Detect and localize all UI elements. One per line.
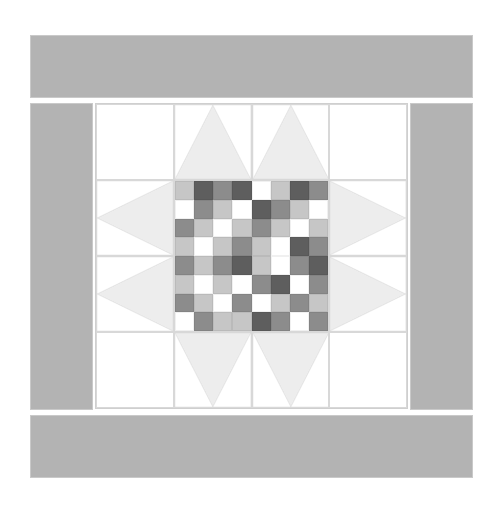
patch-cell[interactable] [232, 256, 251, 275]
patch-cell[interactable] [309, 181, 328, 200]
patch-cell[interactable] [213, 181, 232, 200]
patch-cell[interactable] [290, 275, 309, 294]
patch-cell[interactable] [175, 312, 194, 331]
bottom-sashing-strip [30, 415, 473, 478]
patch-cell[interactable] [290, 200, 309, 219]
corner-top-right[interactable] [329, 104, 407, 180]
star-point-top-left[interactable] [174, 104, 252, 180]
patch-cell[interactable] [213, 237, 232, 256]
star-point-right-bottom[interactable] [329, 256, 407, 332]
patch-cell[interactable] [175, 294, 194, 313]
patch-cell[interactable] [194, 312, 213, 331]
corner-bottom-right[interactable] [329, 332, 407, 408]
patch-cell[interactable] [194, 294, 213, 313]
patch-cell[interactable] [271, 294, 290, 313]
patch-cell[interactable] [213, 275, 232, 294]
patch-cell[interactable] [213, 219, 232, 238]
quilt-canvas [0, 0, 501, 511]
corner-top-left[interactable] [96, 104, 174, 180]
corner-bottom-left[interactable] [96, 332, 174, 408]
patch-cell[interactable] [309, 275, 328, 294]
patch-cell[interactable] [271, 200, 290, 219]
patch-cell[interactable] [175, 181, 194, 200]
patch-cell[interactable] [309, 256, 328, 275]
patch-cell[interactable] [194, 275, 213, 294]
patch-cell[interactable] [309, 219, 328, 238]
right-sashing-strip [410, 103, 473, 410]
star-point-bottom-left[interactable] [174, 332, 252, 408]
patch-cell[interactable] [271, 312, 290, 331]
patch-cell[interactable] [194, 219, 213, 238]
patch-cell[interactable] [194, 237, 213, 256]
left-sashing-strip [30, 103, 93, 410]
patch-cell[interactable] [194, 181, 213, 200]
center-patchwork[interactable] [174, 180, 330, 332]
patch-cell[interactable] [252, 312, 271, 331]
patch-cell[interactable] [175, 256, 194, 275]
star-point-top-right[interactable] [252, 104, 330, 180]
star-point-right-top[interactable] [329, 180, 407, 256]
patch-cell[interactable] [175, 219, 194, 238]
patch-cell[interactable] [175, 237, 194, 256]
patch-cell[interactable] [290, 294, 309, 313]
patch-cell[interactable] [309, 237, 328, 256]
patch-cell[interactable] [290, 256, 309, 275]
star-point-bottom-right[interactable] [252, 332, 330, 408]
star-block [95, 103, 408, 409]
patch-cell[interactable] [290, 237, 309, 256]
patch-cell[interactable] [194, 200, 213, 219]
patch-cell[interactable] [252, 294, 271, 313]
patch-cell[interactable] [232, 312, 251, 331]
patch-cell[interactable] [232, 219, 251, 238]
patch-cell[interactable] [232, 181, 251, 200]
patch-cell[interactable] [271, 256, 290, 275]
star-point-left-top[interactable] [96, 180, 174, 256]
patch-cell[interactable] [309, 200, 328, 219]
patch-cell[interactable] [271, 181, 290, 200]
patch-cell[interactable] [213, 294, 232, 313]
star-point-left-bottom[interactable] [96, 256, 174, 332]
patch-cell[interactable] [175, 200, 194, 219]
patch-cell[interactable] [175, 275, 194, 294]
patch-cell[interactable] [232, 200, 251, 219]
patch-cell[interactable] [232, 237, 251, 256]
patch-cell[interactable] [252, 237, 271, 256]
patch-cell[interactable] [271, 237, 290, 256]
patch-cell[interactable] [271, 275, 290, 294]
top-sashing-strip [30, 35, 473, 98]
patch-cell[interactable] [252, 200, 271, 219]
patch-cell[interactable] [252, 219, 271, 238]
patch-cell[interactable] [309, 312, 328, 331]
patch-cell[interactable] [252, 275, 271, 294]
patch-cell[interactable] [309, 294, 328, 313]
patch-cell[interactable] [213, 200, 232, 219]
patch-cell[interactable] [252, 181, 271, 200]
patch-cell[interactable] [232, 294, 251, 313]
patch-cell[interactable] [213, 312, 232, 331]
patch-cell[interactable] [290, 219, 309, 238]
patch-cell[interactable] [252, 256, 271, 275]
patch-cell[interactable] [194, 256, 213, 275]
patch-cell[interactable] [232, 275, 251, 294]
patch-cell[interactable] [213, 256, 232, 275]
patch-cell[interactable] [271, 219, 290, 238]
patch-cell[interactable] [290, 181, 309, 200]
patch-cell[interactable] [290, 312, 309, 331]
